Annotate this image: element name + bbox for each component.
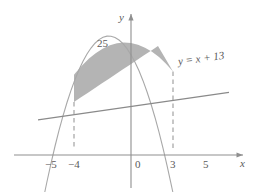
y-axis-label: y xyxy=(119,12,124,23)
x-tick-label-five: 5 xyxy=(203,159,209,170)
plot-svg xyxy=(0,0,261,194)
x-axis-label: x xyxy=(240,158,245,169)
x-tick-label-neg5: −5 xyxy=(45,159,57,170)
x-tick-label-three: 3 xyxy=(170,159,176,170)
x-tick-label-neg4: −4 xyxy=(68,159,80,170)
x-tick-label-zero: 0 xyxy=(135,159,141,170)
line-y-equals-x-plus-13 xyxy=(38,92,229,119)
figure-canvas: y x 25 y = x + 13 −5 −4 0 3 5 xyxy=(0,0,261,194)
y-axis-arrow xyxy=(128,14,133,21)
vertex-value-label: 25 xyxy=(97,38,108,49)
